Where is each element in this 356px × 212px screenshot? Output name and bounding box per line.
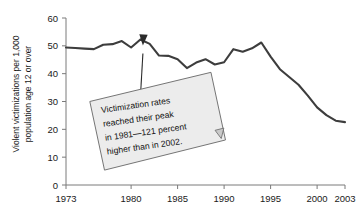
y-tick-label: 50 [47,40,58,51]
y-tick-label: 30 [47,96,58,107]
y-tick-label: 40 [47,68,58,79]
x-tick-label: 1990 [214,193,235,204]
x-tick-label: 1973 [55,193,76,204]
y-tick-label: 60 [47,13,58,24]
y-tick-label: 0 [53,180,58,191]
x-tick-marks [66,185,345,189]
y-tick-labels: 0102030405060 [47,13,58,191]
x-tick-label: 1980 [121,193,142,204]
x-axis: 1973198019851990199520002003 [55,185,355,204]
x-tick-label: 1995 [260,193,281,204]
chart-container: Violent victimizations per 1,000 populat… [0,0,356,212]
x-tick-label: 2003 [334,193,355,204]
y-tick-marks [62,18,66,185]
x-tick-label: 2000 [307,193,328,204]
y-tick-label: 10 [47,152,58,163]
x-tick-labels: 1973198019851990199520002003 [55,193,355,204]
x-tick-label: 1985 [167,193,188,204]
y-axis: 0102030405060 [47,13,66,191]
y-tick-label: 20 [47,124,58,135]
line-chart: 0102030405060 19731980198519901995200020… [0,0,356,212]
